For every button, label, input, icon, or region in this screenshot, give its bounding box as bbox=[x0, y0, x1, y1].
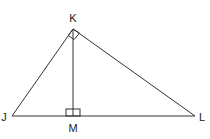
right-angle-marker-k bbox=[68, 29, 79, 40]
triangle-diagram: J K L M bbox=[0, 0, 210, 139]
label-l: L bbox=[199, 111, 205, 123]
label-k: K bbox=[69, 12, 77, 24]
label-m: M bbox=[68, 122, 77, 134]
label-j: J bbox=[1, 111, 7, 123]
segment-kl bbox=[73, 29, 195, 116]
segment-jk bbox=[12, 29, 73, 116]
right-angle-marker-k-inner bbox=[68, 29, 73, 36]
